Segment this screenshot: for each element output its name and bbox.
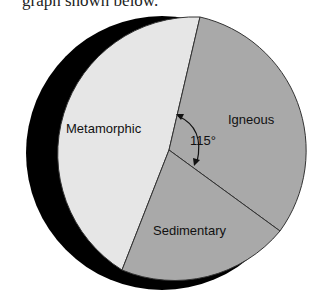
label-sedimentary: Sedimentary bbox=[153, 223, 226, 238]
label-igneous: Igneous bbox=[228, 112, 275, 127]
label-metamorphic: Metamorphic bbox=[66, 121, 142, 136]
pie-chart: Metamorphic Igneous Sedimentary 115° bbox=[0, 0, 324, 297]
label-angle: 115° bbox=[190, 133, 216, 148]
